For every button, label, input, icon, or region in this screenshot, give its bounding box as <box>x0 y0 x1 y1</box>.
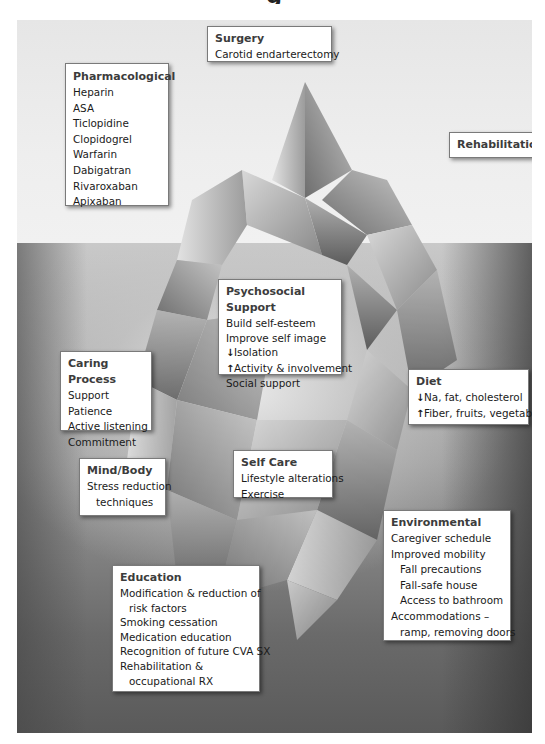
diet-heading: Diet <box>416 374 521 390</box>
drug-item: Warfarin <box>73 147 161 163</box>
title-fragment: g <box>244 0 304 4</box>
caring-item: Active listening <box>68 419 144 435</box>
rehabilitation-heading: Rehabilitation <box>457 137 526 153</box>
environmental-item: Caregiver schedule <box>391 531 503 547</box>
surgery-heading: Surgery <box>215 31 324 47</box>
up-arrow-icon: ↑ <box>416 406 424 422</box>
education-box: Education Modification & reduction of ri… <box>112 565 260 692</box>
environmental-item: Accommodations – <box>391 609 503 625</box>
up-arrow-icon: ↑ <box>226 362 234 377</box>
rehabilitation-box: Rehabilitation <box>449 132 532 158</box>
mindbody-item: techniques <box>87 495 158 511</box>
environmental-item: Fall precautions <box>391 562 503 578</box>
self-care-box: Self Care Lifestyle alterations Exercise <box>233 450 333 498</box>
pharmacological-box: Pharmacological Heparin ASA Ticlopidine … <box>65 63 169 206</box>
psychosocial-heading: Psychosocial Support <box>226 284 334 316</box>
caring-process-box: Caring Process Support Patience Active l… <box>60 351 152 431</box>
caring-item: Commitment <box>68 435 144 451</box>
selfcare-item: Exercise <box>241 487 325 503</box>
psychosocial-item: Improve self image <box>226 331 334 346</box>
education-item: Recognition of future CVA SX <box>120 644 252 659</box>
education-heading: Education <box>120 570 252 586</box>
drug-item: Clopidogrel <box>73 132 161 148</box>
surgery-box: Surgery Carotid endarterectomy <box>207 26 332 62</box>
environmental-item: Improved mobility <box>391 547 503 563</box>
drug-item: Ticlopidine <box>73 116 161 132</box>
selfcare-heading: Self Care <box>241 455 325 471</box>
psychosocial-box: Psychosocial Support Build self-esteem I… <box>218 279 342 375</box>
drug-item: Heparin <box>73 85 161 101</box>
psychosocial-item: ↑Activity & involvement <box>226 361 334 377</box>
diet-item: ↓Na, fat, cholesterol <box>416 390 521 406</box>
environmental-item: Access to bathroom <box>391 593 503 609</box>
environmental-box: Environmental Caregiver schedule Improve… <box>383 510 511 641</box>
education-item: Smoking cessation <box>120 615 252 630</box>
psychosocial-item: Social support <box>226 376 334 391</box>
mind-body-box: Mind/Body Stress reduction techniques <box>79 458 166 516</box>
education-item: Rehabilitation & <box>120 659 252 674</box>
drug-item: ASA <box>73 101 161 117</box>
drug-item: Rivaroxaban <box>73 179 161 195</box>
down-arrow-icon: ↓ <box>416 390 424 406</box>
mindbody-heading: Mind/Body <box>87 463 158 479</box>
pharmacological-heading: Pharmacological <box>73 69 161 85</box>
drug-item: Dabigatran <box>73 163 161 179</box>
environmental-item: Fall-safe house <box>391 578 503 594</box>
caring-item: Support <box>68 388 144 404</box>
environmental-item: ramp, removing doors <box>391 625 503 641</box>
selfcare-item: Lifestyle alterations <box>241 471 325 487</box>
education-item: Medication education <box>120 630 252 645</box>
iceberg-panel: Surgery Carotid endarterectomy Pharmacol… <box>17 20 532 733</box>
mindbody-item: Stress reduction <box>87 479 158 495</box>
psychosocial-item: Build self-esteem <box>226 316 334 331</box>
drug-item: Apixaban <box>73 194 161 210</box>
surgery-item: Carotid endarterectomy <box>215 47 324 63</box>
education-item: risk factors <box>120 601 252 616</box>
education-item: occupational RX <box>120 674 252 689</box>
environmental-heading: Environmental <box>391 515 503 531</box>
diet-box: Diet ↓Na, fat, cholesterol ↑Fiber, fruit… <box>408 369 529 425</box>
down-arrow-icon: ↓ <box>226 346 234 361</box>
psychosocial-item: ↓Isolation <box>226 345 334 361</box>
education-item: Modification & reduction of <box>120 586 252 601</box>
caring-heading: Caring Process <box>68 356 144 388</box>
diet-item: ↑Fiber, fruits, vegetables <box>416 406 521 422</box>
caring-item: Patience <box>68 404 144 420</box>
